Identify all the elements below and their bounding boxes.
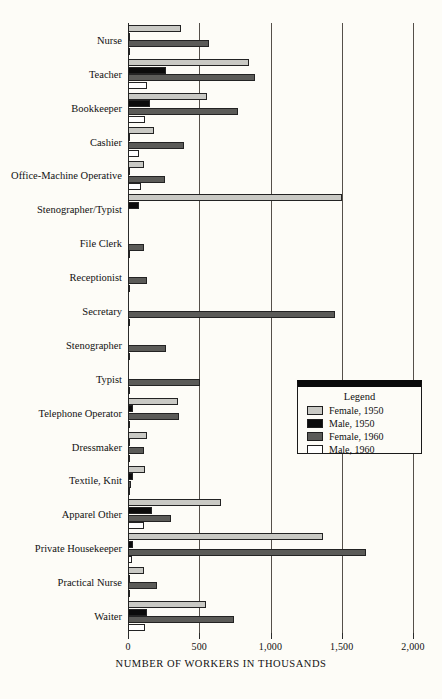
bar bbox=[128, 488, 130, 495]
bar bbox=[128, 398, 178, 405]
category-label: Cashier bbox=[90, 136, 122, 147]
bar bbox=[128, 108, 238, 115]
bar-group: Nurse bbox=[128, 23, 413, 57]
category-label: Bookkeeper bbox=[71, 102, 122, 113]
bar bbox=[128, 413, 179, 420]
legend-swatch bbox=[307, 406, 323, 415]
bar bbox=[128, 556, 132, 563]
legend-rows: Female, 1950Male, 1950Female, 1960Male, … bbox=[303, 404, 416, 456]
bar bbox=[128, 455, 130, 462]
bar-group: Cashier bbox=[128, 125, 413, 159]
category-label: Receptionist bbox=[70, 272, 123, 283]
bar bbox=[128, 616, 234, 623]
legend-swatch bbox=[307, 419, 323, 428]
legend: Legend Female, 1950Male, 1950Female, 196… bbox=[297, 380, 422, 454]
bar-group: File Clerk bbox=[128, 226, 413, 260]
x-tick-label: 2,000 bbox=[401, 641, 425, 652]
bar bbox=[128, 601, 206, 608]
bar bbox=[128, 473, 133, 480]
legend-title: Legend bbox=[303, 391, 416, 402]
bar bbox=[128, 134, 130, 141]
x-tick-label: 1,000 bbox=[259, 641, 283, 652]
bar bbox=[128, 609, 147, 616]
category-label: Stenographer bbox=[66, 339, 122, 350]
x-tick bbox=[271, 633, 272, 639]
category-label: Private Housekeeper bbox=[35, 543, 122, 554]
bar bbox=[128, 533, 323, 540]
legend-label: Male, 1960 bbox=[329, 444, 375, 455]
category-label: Nurse bbox=[97, 34, 122, 45]
plot-area: NurseTeacherBookkeeperCashierOffice-Mach… bbox=[128, 23, 413, 633]
bar bbox=[128, 311, 335, 318]
category-label: Practical Nurse bbox=[58, 577, 122, 588]
bar bbox=[128, 82, 147, 89]
x-tick bbox=[342, 633, 343, 639]
bar-group: Stenographer bbox=[128, 328, 413, 362]
bar bbox=[128, 507, 152, 514]
bar bbox=[128, 567, 144, 574]
bar-group: Practical Nurse bbox=[128, 565, 413, 599]
bar bbox=[128, 319, 130, 326]
bar bbox=[128, 541, 133, 548]
category-label: Secretary bbox=[82, 306, 122, 317]
bar bbox=[128, 379, 200, 386]
x-tick bbox=[199, 633, 200, 639]
bar bbox=[128, 25, 181, 32]
legend-item: Male, 1960 bbox=[307, 443, 416, 456]
bar bbox=[128, 59, 249, 66]
bar-group: Textile, Knit bbox=[128, 464, 413, 498]
bar bbox=[128, 624, 145, 631]
bar bbox=[128, 168, 130, 175]
legend-label: Female, 1950 bbox=[329, 405, 383, 416]
bar bbox=[128, 353, 130, 360]
bar bbox=[128, 40, 209, 47]
bar bbox=[128, 481, 131, 488]
bar-group: Office-Machine Operative bbox=[128, 159, 413, 193]
bar bbox=[128, 345, 166, 352]
bar bbox=[128, 93, 207, 100]
legend-swatch bbox=[307, 445, 323, 454]
bar bbox=[128, 161, 144, 168]
bar bbox=[128, 67, 166, 74]
category-label: Telephone Operator bbox=[38, 407, 122, 418]
legend-label: Female, 1960 bbox=[329, 431, 383, 442]
category-label: Textile, Knit bbox=[69, 475, 122, 486]
category-label: Stenographer/Typist bbox=[37, 204, 122, 215]
bar bbox=[128, 48, 130, 55]
x-tick-label: 1,500 bbox=[330, 641, 354, 652]
x-tick-label: 500 bbox=[191, 641, 207, 652]
bar bbox=[128, 405, 133, 412]
bar bbox=[128, 244, 144, 251]
category-label: Apparel Other bbox=[62, 509, 122, 520]
bar-group: Bookkeeper bbox=[128, 91, 413, 125]
x-tick bbox=[128, 633, 129, 639]
gridline-2,000 bbox=[413, 23, 414, 633]
x-tick bbox=[413, 633, 414, 639]
bar bbox=[128, 466, 145, 473]
bar bbox=[128, 142, 184, 149]
category-label: Office-Machine Operative bbox=[11, 170, 122, 181]
bar bbox=[128, 549, 366, 556]
bar bbox=[128, 499, 221, 506]
bar-group: Receptionist bbox=[128, 260, 413, 294]
legend-swatch bbox=[307, 432, 323, 441]
x-axis-title: NUMBER OF WORKERS IN THOUSANDS bbox=[0, 658, 442, 669]
bar bbox=[128, 74, 255, 81]
bar bbox=[128, 202, 139, 209]
bar bbox=[128, 251, 130, 258]
bar bbox=[128, 183, 141, 190]
bar bbox=[128, 285, 130, 292]
bar bbox=[128, 116, 145, 123]
bar bbox=[128, 432, 147, 439]
bar bbox=[128, 194, 342, 201]
category-label: Teacher bbox=[89, 68, 122, 79]
bar-group: Waiter bbox=[128, 599, 413, 633]
bar-group: Stenographer/Typist bbox=[128, 192, 413, 226]
bar bbox=[128, 515, 171, 522]
bar bbox=[128, 575, 130, 582]
category-label: File Clerk bbox=[80, 238, 122, 249]
bar bbox=[128, 582, 157, 589]
bar-group: Teacher bbox=[128, 57, 413, 91]
bar bbox=[128, 33, 130, 40]
bar bbox=[128, 277, 147, 284]
